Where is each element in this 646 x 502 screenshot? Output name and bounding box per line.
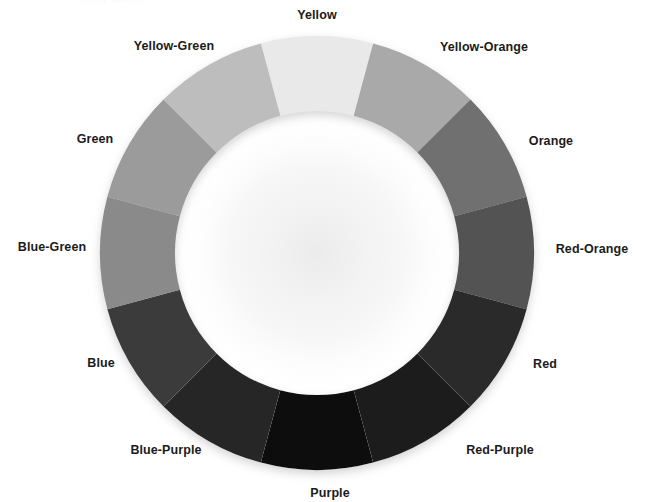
wheel-segment-purple[interactable] [261, 390, 373, 470]
wheel-label-blue-green: Blue-Green [18, 240, 86, 254]
wheel-label-blue-purple: Blue-Purple [130, 443, 201, 457]
wheel-segment-yellow[interactable] [261, 36, 373, 116]
wheel-label-red-purple: Red-Purple [466, 443, 534, 457]
wheel-label-orange: Orange [529, 134, 573, 148]
wheel-label-blue: Blue [87, 356, 115, 370]
wheel-label-purple: Purple [310, 486, 350, 500]
wheel-label-red: Red [533, 357, 557, 371]
wheel-label-yellow: Yellow [297, 8, 337, 22]
wheel-inner-glow [173, 109, 461, 397]
wheel-label-yellow-green: Yellow-Green [134, 39, 214, 53]
wheel-label-red-orange: Red-Orange [556, 242, 629, 256]
wheel-segment-red-orange[interactable] [454, 197, 534, 309]
color-wheel-page: Color Wheel YellowYellow-OrangeOrangeRed… [0, 0, 646, 502]
wheel-segment-blue-green[interactable] [100, 197, 180, 309]
wheel-label-yellow-orange: Yellow-Orange [440, 40, 528, 54]
wheel-label-green: Green [77, 132, 114, 146]
color-wheel-figure: YellowYellow-OrangeOrangeRed-OrangeRedRe… [0, 0, 646, 502]
color-wheel-svg [0, 0, 646, 502]
